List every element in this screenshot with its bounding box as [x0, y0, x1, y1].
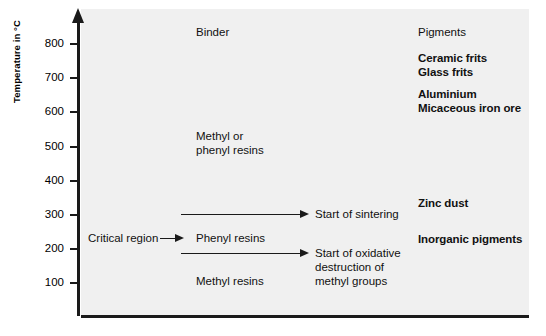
y-tick-label-500: 500 [22, 141, 64, 153]
y-tick-label-800: 800 [22, 38, 64, 50]
label-critical-region: Critical region [88, 232, 158, 246]
label-ceramic-frits: Ceramic frits [418, 52, 487, 66]
y-tick-label-400: 400 [22, 175, 64, 187]
y-axis-arrow-icon [72, 8, 84, 23]
label-aluminium: Aluminium [418, 88, 477, 102]
label-start-of-sintering: Start of sintering [315, 208, 399, 222]
oxidative-destruction-arrow-icon [181, 249, 309, 258]
label-inorganic-pigments: Inorganic pigments [418, 233, 522, 247]
y-tick-mark-200 [70, 248, 79, 250]
binder-column-header: Binder [196, 26, 229, 40]
y-tick-mark-100 [70, 282, 79, 284]
y-tick-mark-500 [70, 146, 79, 148]
label-methyl-resins: Methyl resins [196, 275, 264, 289]
label-start-of-oxidative-line3: methyl groups [315, 275, 387, 289]
y-tick-label-100: 100 [22, 277, 64, 289]
y-tick-label-300: 300 [22, 209, 64, 221]
y-tick-label-700: 700 [22, 72, 64, 84]
y-tick-label-200: 200 [22, 243, 64, 255]
label-phenyl-resins-upper: phenyl resins [196, 144, 264, 158]
label-start-of-oxidative-line2: destruction of [315, 261, 384, 275]
y-tick-mark-700 [70, 77, 79, 79]
temperature-resistance-diagram: Temperature in °C 800 700 600 500 400 30… [0, 0, 546, 336]
label-phenyl-resins: Phenyl resins [196, 232, 265, 246]
label-zinc-dust: Zinc dust [418, 197, 468, 211]
critical-region-arrow-icon [160, 234, 184, 243]
label-glass-frits: Glass frits [418, 66, 473, 80]
pigments-column-header: Pigments [418, 26, 466, 40]
y-tick-mark-600 [70, 111, 79, 113]
label-micaceous-iron-ore: Micaceous iron ore [418, 102, 521, 116]
y-tick-mark-300 [70, 214, 79, 216]
label-start-of-oxidative-line1: Start of oxidative [315, 247, 401, 261]
label-methyl-or: Methyl or [196, 130, 243, 144]
sintering-arrow-icon [181, 210, 309, 219]
y-tick-label-600: 600 [22, 106, 64, 118]
y-tick-mark-800 [70, 43, 79, 45]
y-axis-title: Temperature in °C [11, 2, 22, 122]
y-axis-spine [77, 22, 80, 316]
y-tick-mark-400 [70, 180, 79, 182]
